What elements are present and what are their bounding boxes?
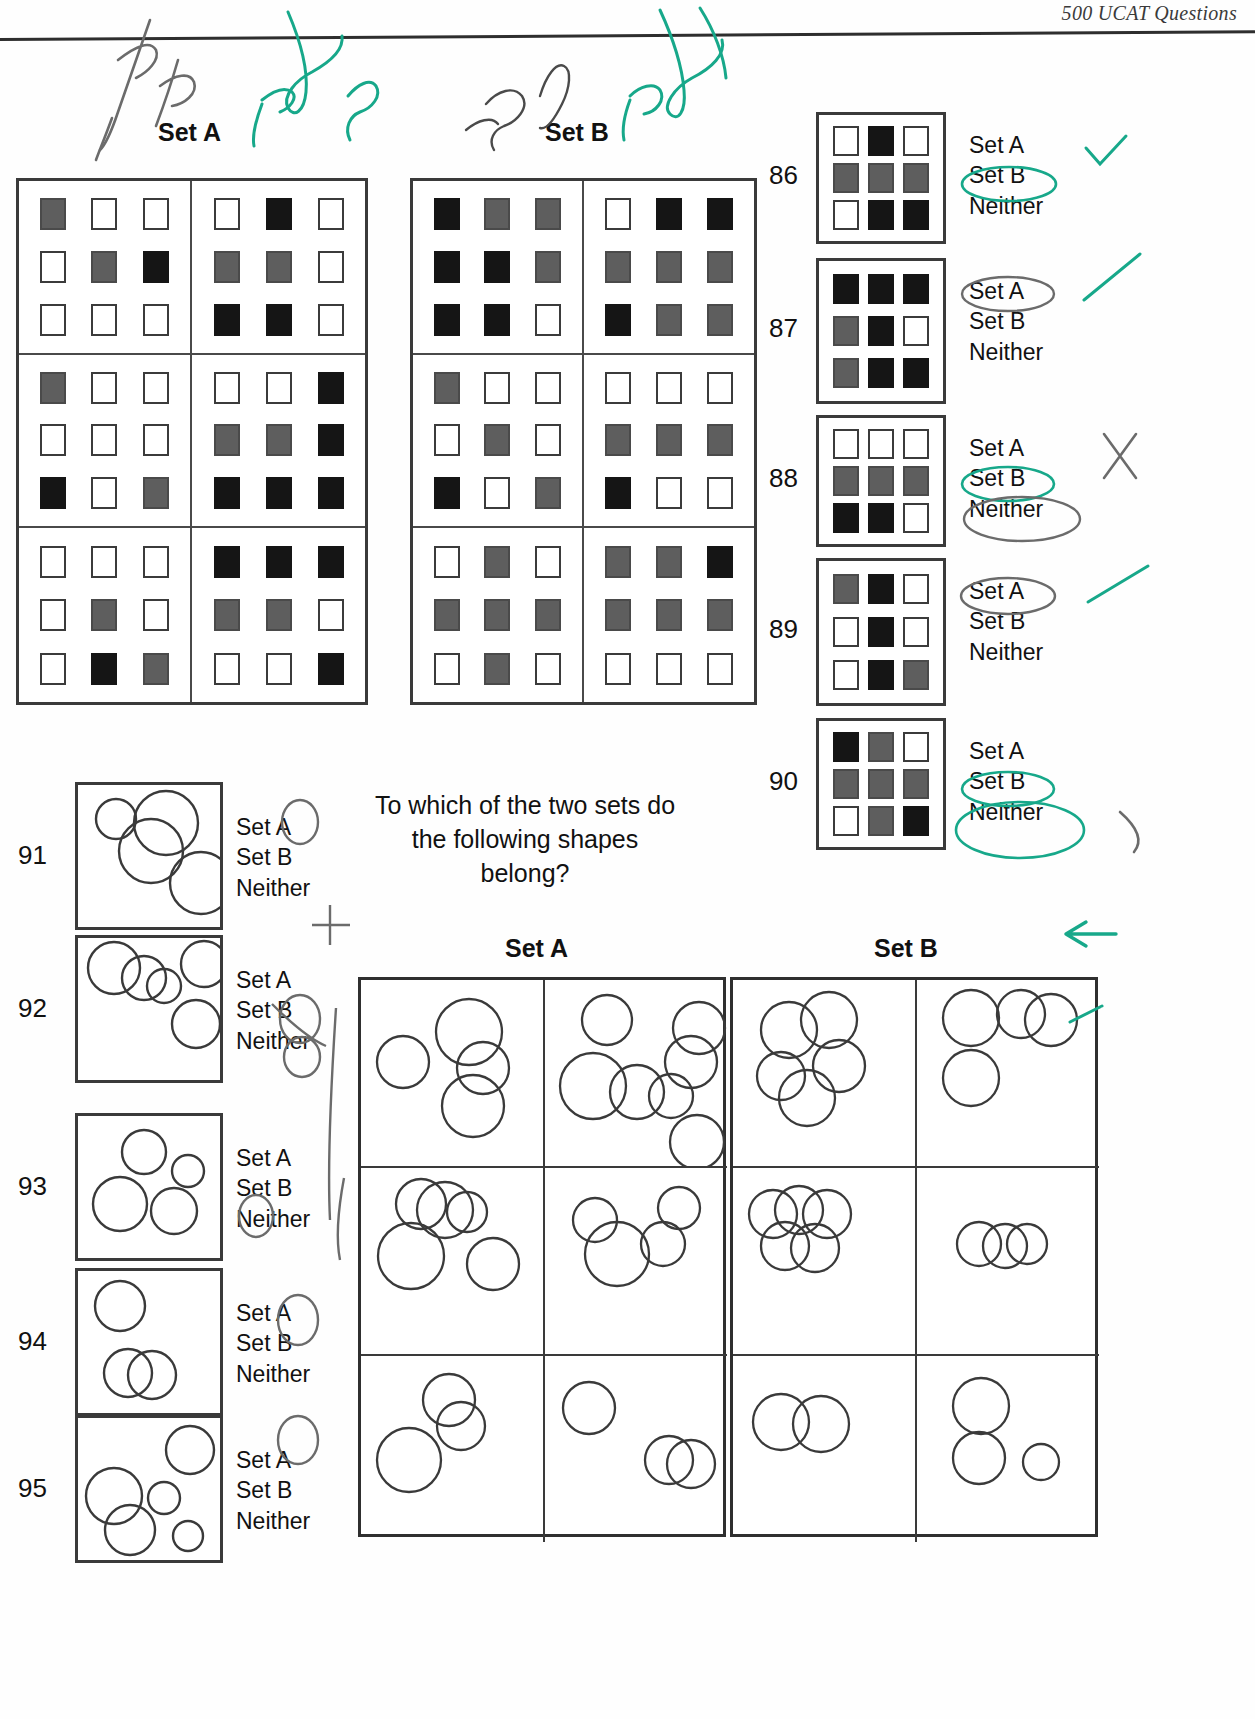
- square-swatch-black: [868, 126, 894, 156]
- square-swatch-grey: [605, 424, 631, 456]
- square-swatch-grey: [143, 653, 169, 685]
- answer-options-94: Set ASet BNeither: [236, 1298, 310, 1389]
- answer-options-91: Set ASet BNeither: [236, 812, 310, 903]
- square-swatch-white: [656, 372, 682, 404]
- square-swatch-white: [91, 424, 117, 456]
- option-neither[interactable]: Neither: [236, 1204, 310, 1234]
- question-number-90: 90: [769, 766, 798, 797]
- square-swatch-grey: [833, 769, 859, 799]
- square-swatch-white: [833, 200, 859, 230]
- option-set-b[interactable]: Set B: [969, 306, 1043, 336]
- square-swatch-grey: [40, 198, 66, 230]
- square-swatch-grey: [605, 546, 631, 578]
- option-set-a[interactable]: Set A: [969, 576, 1043, 606]
- option-set-b[interactable]: Set B: [236, 995, 310, 1025]
- circles-set-b-cell: [733, 980, 917, 1168]
- square-swatch-black: [266, 198, 292, 230]
- square-swatch-grey: [707, 599, 733, 631]
- square-swatch-white: [903, 617, 929, 647]
- square-swatch-grey: [214, 599, 240, 631]
- square-swatch-grey: [605, 599, 631, 631]
- set-a-cell: [192, 528, 365, 702]
- square-swatch-grey: [833, 358, 859, 388]
- square-swatch-black: [214, 304, 240, 336]
- square-swatch-black: [833, 274, 859, 304]
- square-swatch-grey: [656, 251, 682, 283]
- square-swatch-white: [214, 198, 240, 230]
- option-set-b[interactable]: Set B: [969, 766, 1043, 796]
- square-swatch-white: [318, 251, 344, 283]
- question-shape-box-93: [75, 1113, 223, 1261]
- square-swatch-grey: [434, 372, 460, 404]
- square-swatch-white: [143, 546, 169, 578]
- square-swatch-grey: [903, 769, 929, 799]
- square-swatch-white: [605, 198, 631, 230]
- answer-options-88: Set ASet BNeither: [969, 433, 1043, 524]
- option-neither[interactable]: Neither: [969, 797, 1043, 827]
- option-set-a[interactable]: Set A: [236, 965, 310, 995]
- option-neither[interactable]: Neither: [969, 494, 1043, 524]
- option-neither[interactable]: Neither: [236, 1026, 310, 1056]
- option-neither[interactable]: Neither: [969, 191, 1043, 221]
- circles-set-a-cell: [361, 1168, 545, 1356]
- square-swatch-white: [535, 304, 561, 336]
- square-swatch-white: [656, 477, 682, 509]
- question-number-88: 88: [769, 463, 798, 494]
- answer-options-93: Set ASet BNeither: [236, 1143, 310, 1234]
- square-swatch-white: [605, 372, 631, 404]
- circles-set-a-cell: [545, 1356, 727, 1542]
- squares-set-b-grid: [410, 178, 757, 705]
- set-b-cell: [584, 528, 755, 702]
- square-swatch-white: [833, 660, 859, 690]
- option-set-b[interactable]: Set B: [236, 1475, 310, 1505]
- option-set-a[interactable]: Set A: [969, 130, 1043, 160]
- option-neither[interactable]: Neither: [236, 1506, 310, 1536]
- option-set-b[interactable]: Set B: [969, 606, 1043, 636]
- square-swatch-black: [318, 546, 344, 578]
- option-set-a[interactable]: Set A: [236, 812, 310, 842]
- square-swatch-grey: [214, 251, 240, 283]
- circles-set-b-cell: [733, 1168, 917, 1356]
- question-grid-87: [816, 258, 946, 404]
- prompt-line-3: belong?: [330, 856, 720, 890]
- option-set-b[interactable]: Set B: [236, 1328, 310, 1358]
- option-set-a[interactable]: Set A: [969, 433, 1043, 463]
- option-set-a[interactable]: Set A: [969, 736, 1043, 766]
- option-set-a[interactable]: Set A: [969, 276, 1043, 306]
- square-swatch-white: [143, 599, 169, 631]
- square-swatch-black: [484, 304, 510, 336]
- option-set-b[interactable]: Set B: [969, 463, 1043, 493]
- square-swatch-white: [143, 304, 169, 336]
- square-swatch-white: [656, 653, 682, 685]
- square-swatch-black: [318, 653, 344, 685]
- square-swatch-black: [214, 477, 240, 509]
- square-swatch-white: [143, 198, 169, 230]
- option-set-b[interactable]: Set B: [969, 160, 1043, 190]
- square-swatch-white: [707, 653, 733, 685]
- answer-options-86: Set ASet BNeither: [969, 130, 1043, 221]
- square-swatch-grey: [833, 163, 859, 193]
- square-swatch-black: [868, 274, 894, 304]
- option-set-a[interactable]: Set A: [236, 1143, 310, 1173]
- square-swatch-grey: [868, 806, 894, 836]
- question-number-86: 86: [769, 160, 798, 191]
- option-set-b[interactable]: Set B: [236, 842, 310, 872]
- square-swatch-black: [903, 274, 929, 304]
- square-swatch-white: [903, 503, 929, 533]
- square-swatch-white: [434, 424, 460, 456]
- square-swatch-white: [605, 653, 631, 685]
- square-swatch-white: [535, 653, 561, 685]
- option-neither[interactable]: Neither: [969, 337, 1043, 367]
- option-neither[interactable]: Neither: [236, 873, 310, 903]
- square-swatch-grey: [656, 304, 682, 336]
- square-swatch-black: [903, 200, 929, 230]
- square-swatch-grey: [833, 466, 859, 496]
- square-swatch-black: [868, 316, 894, 346]
- option-neither[interactable]: Neither: [236, 1359, 310, 1389]
- option-neither[interactable]: Neither: [969, 637, 1043, 667]
- option-set-a[interactable]: Set A: [236, 1298, 310, 1328]
- option-set-b[interactable]: Set B: [236, 1173, 310, 1203]
- square-swatch-grey: [143, 477, 169, 509]
- option-set-a[interactable]: Set A: [236, 1445, 310, 1475]
- circles-set-a-cell: [545, 1168, 727, 1356]
